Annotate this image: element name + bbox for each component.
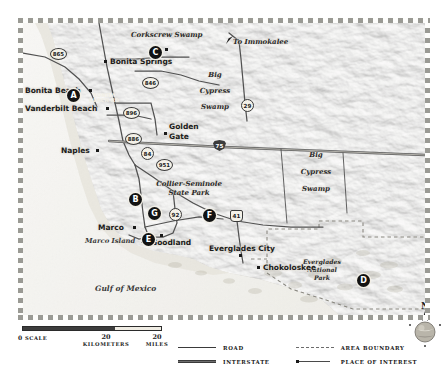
feature-label-to-immokalee: To Immokalee xyxy=(233,38,288,45)
cssp-line-1: Collier-Seminole xyxy=(151,180,227,187)
shield-84[interactable]: 84 xyxy=(141,147,154,160)
bcsw-line-3: Swamp xyxy=(195,103,235,110)
scale-word: SCALE xyxy=(25,335,47,341)
poi-dot-marco xyxy=(133,226,136,229)
water-label-gulf-of-mexico: Gulf of Mexico xyxy=(95,285,156,293)
marker-e[interactable]: E xyxy=(142,233,155,246)
bcse-line-1: Big xyxy=(295,151,337,158)
cssp-line-2: State Park xyxy=(151,189,227,196)
legend-interstate: INTERSTATE xyxy=(178,358,270,365)
scale-bar: 0 SCALE 20 KILOMETERS 20 MILES xyxy=(22,326,162,331)
compass-north-label: N xyxy=(421,301,429,311)
marker-f[interactable]: F xyxy=(203,209,216,222)
square-marker-icon xyxy=(296,358,334,365)
feature-label-corkscrew-swamp: Corkscrew Swamp xyxy=(131,31,203,38)
marker-b[interactable]: B xyxy=(129,193,142,206)
poi-dot-vanderbilt-beach xyxy=(106,107,109,110)
poi-dot-goodland xyxy=(160,234,163,237)
scale-km-unit: KILOMETERS xyxy=(82,341,130,347)
map-footer: 0 SCALE 20 KILOMETERS 20 MILES ROAD IN xyxy=(0,322,448,369)
poi-dot-everglades-city xyxy=(239,254,242,257)
legend-road: ROAD xyxy=(178,344,270,351)
bcsw-line-2: Cypress xyxy=(195,87,235,94)
shield-92[interactable]: 92 xyxy=(169,208,182,221)
golden-gate-line-2: Gate xyxy=(169,133,199,141)
scale-km-value: 20 xyxy=(82,333,130,341)
place-label-everglades-city: Everglades City xyxy=(209,245,275,253)
poi-dot-marker-c xyxy=(165,48,168,51)
legend-place-of-interest: PLACE OF INTEREST xyxy=(296,358,418,365)
shield-29[interactable]: 29 xyxy=(241,99,254,112)
place-label-naples: Naples xyxy=(61,147,90,155)
shield-865[interactable]: 865 xyxy=(50,48,67,60)
scale-miles: 20 MILES xyxy=(137,333,177,347)
place-label-chokoloskee: Chokoloskee xyxy=(263,264,316,272)
poi-dot-naples xyxy=(96,149,99,152)
scale-mi-unit: MILES xyxy=(137,341,177,347)
legend-road-label: ROAD xyxy=(223,345,244,351)
legend-interstate-label: INTERSTATE xyxy=(223,359,270,365)
scale-bar-graphic xyxy=(22,326,162,331)
map-canvas[interactable]: Corkscrew Swamp To Immokalee Big Cypress… xyxy=(23,23,425,315)
legend-column-right: AREA BOUNDARY PLACE OF INTEREST xyxy=(296,344,418,365)
shield-846[interactable]: 846 xyxy=(142,77,159,89)
feature-label-big-cypress-swamp-west: Big Cypress Swamp xyxy=(195,71,235,110)
bcse-line-2: Cypress xyxy=(295,168,337,175)
feature-label-big-cypress-swamp-east: Big Cypress Swamp xyxy=(295,151,337,192)
poi-dot-bonita-beach xyxy=(89,89,92,92)
map-legend: ROAD INTERSTATE AREA BOUNDARY PLACE OF I… xyxy=(178,344,417,365)
enp-line-3: Park xyxy=(301,275,343,281)
shield-896[interactable]: 896 xyxy=(123,107,140,119)
marker-a[interactable]: A xyxy=(67,89,80,102)
interstate-line-icon xyxy=(178,358,216,365)
place-label-vanderbilt-beach: Vanderbilt Beach xyxy=(25,105,97,113)
bcsw-line-1: Big xyxy=(195,71,235,78)
bcse-line-3: Swamp xyxy=(295,185,337,192)
to-immokalee-arrow-icon xyxy=(224,35,235,46)
legend-area-boundary-label: AREA BOUNDARY xyxy=(341,345,405,351)
poi-dot-chokoloskee xyxy=(257,266,260,269)
golden-gate-line-1: Golden xyxy=(169,123,199,131)
poi-dot-bonita-springs xyxy=(104,60,107,63)
scale-mi-value: 20 xyxy=(137,333,177,341)
bbrd-line-2: BEACH RD xyxy=(89,98,119,103)
scale-kilometers: 20 KILOMETERS xyxy=(82,333,130,347)
map-frame: Corkscrew Swamp To Immokalee Big Cypress… xyxy=(18,18,430,320)
place-label-goodland: Goodland xyxy=(151,239,191,247)
shield-951[interactable]: 951 xyxy=(156,159,173,171)
legend-area-boundary: AREA BOUNDARY xyxy=(296,344,418,351)
marker-c[interactable]: C xyxy=(149,46,162,59)
shield-886[interactable]: 886 xyxy=(125,133,142,145)
legend-column-left: ROAD INTERSTATE xyxy=(178,344,270,365)
marker-d[interactable]: D xyxy=(357,274,370,287)
place-label-bonita-springs: Bonita Springs xyxy=(110,58,172,66)
place-label-marco: Marco xyxy=(98,224,124,232)
legend-place-of-interest-label: PLACE OF INTEREST xyxy=(341,359,418,365)
scale-zero-label: 0 SCALE xyxy=(18,334,47,341)
dashed-line-icon xyxy=(296,344,334,351)
road-label-bonita-beach-rd: BONITA BEACH RD xyxy=(89,93,119,104)
scale-zero-number: 0 xyxy=(18,334,23,341)
place-label-golden-gate: Golden Gate xyxy=(169,123,199,140)
map-base-graphics xyxy=(23,23,425,315)
map-page: Corkscrew Swamp To Immokalee Big Cypress… xyxy=(0,0,448,369)
road-line-icon xyxy=(178,344,216,351)
marker-g[interactable]: G xyxy=(148,207,161,220)
compass-rose: N xyxy=(408,301,442,347)
water-label-marco-island: Marco Island xyxy=(85,238,135,245)
poi-dot-golden-gate xyxy=(164,132,167,135)
feature-label-collier-seminole-state-park: Collier-Seminole State Park xyxy=(151,180,227,196)
shield-41[interactable]: 41 xyxy=(230,210,243,222)
